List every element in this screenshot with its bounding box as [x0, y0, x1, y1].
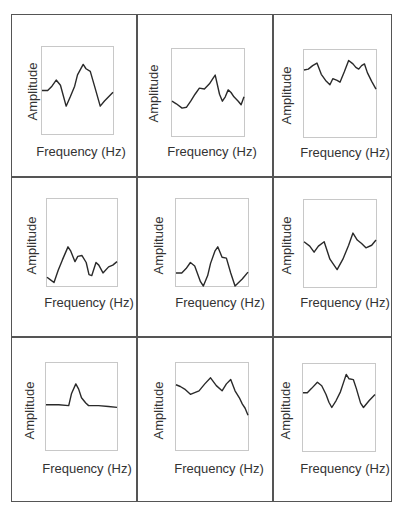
plot-area: [303, 199, 377, 288]
plot-area: [41, 46, 114, 135]
column-divider-1: [136, 14, 138, 502]
x-axis-label: Frequency (Hz): [298, 295, 392, 310]
x-axis-label: Frequency (Hz): [165, 144, 259, 159]
y-axis-label: Amplitude: [151, 206, 166, 286]
line-series: [303, 364, 375, 451]
x-axis-label: Frequency (Hz): [298, 461, 392, 476]
column-divider-2: [272, 14, 274, 502]
y-axis-label: Amplitude: [24, 206, 39, 286]
y-axis-label: Amplitude: [278, 371, 293, 451]
y-axis-label: Amplitude: [279, 56, 294, 136]
plot-area: [171, 48, 245, 137]
plot-area: [175, 198, 249, 287]
x-axis-label: Frequency (Hz): [172, 461, 266, 476]
line-series: [176, 363, 248, 450]
row-divider-1: [11, 176, 392, 178]
x-axis-label: Frequency (Hz): [34, 144, 128, 159]
line-series: [304, 50, 376, 137]
y-axis-label: Amplitude: [22, 371, 37, 451]
x-axis-label: Frequency (Hz): [298, 145, 392, 160]
line-series: [42, 47, 113, 134]
x-axis-label: Frequency (Hz): [42, 295, 136, 310]
y-axis-label: Amplitude: [25, 52, 40, 132]
line-series: [46, 363, 117, 450]
y-axis-label: Amplitude: [279, 206, 294, 286]
row-divider-2: [11, 336, 392, 338]
x-axis-label: Frequency (Hz): [40, 461, 134, 476]
x-axis-label: Frequency (Hz): [173, 295, 267, 310]
plot-area: [45, 362, 118, 451]
line-series: [47, 199, 117, 286]
plot-area: [175, 362, 249, 451]
y-axis-label: Amplitude: [151, 371, 166, 451]
y-axis-label: Amplitude: [146, 54, 161, 134]
plot-area: [303, 49, 377, 138]
plot-area: [302, 363, 376, 452]
line-series: [304, 200, 376, 287]
plot-area: [46, 198, 118, 287]
line-series: [172, 49, 244, 136]
line-series: [176, 199, 248, 286]
